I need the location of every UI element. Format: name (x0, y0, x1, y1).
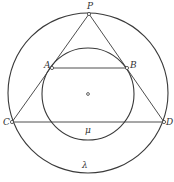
label-point-p: P (86, 1, 94, 11)
labels-group: PABCDμλ (3, 1, 173, 170)
point-a (50, 66, 53, 69)
geometry-figure: PABCDμλ (0, 0, 174, 182)
label-point-c: C (3, 117, 10, 127)
label-point-d: D (165, 117, 173, 127)
point-b (125, 66, 128, 69)
center-point (87, 93, 90, 96)
label-circle-mu: μ (85, 125, 91, 135)
label-point-a: A (43, 60, 51, 70)
segments-group (12, 14, 164, 122)
diagram-canvas: PABCDμλ (0, 0, 174, 182)
point-c (10, 120, 13, 123)
point-p (87, 12, 90, 15)
label-point-b: B (129, 60, 137, 70)
label-circle-lambda: λ (81, 160, 88, 170)
